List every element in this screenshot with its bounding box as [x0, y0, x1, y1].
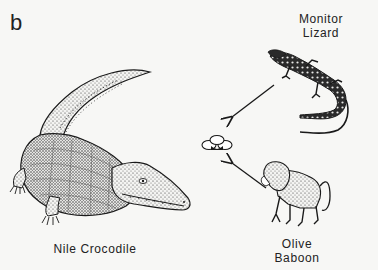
egg-clutch-illustration [202, 136, 232, 151]
nile-crocodile-illustration [10, 70, 190, 225]
olive-baboon-illustration [261, 162, 330, 226]
arrow-monitor-to-eggs [232, 85, 274, 117]
figure-panel-b: b Monitor Lizard Nile Crocodile Olive Ba… [0, 0, 378, 270]
monitor-lizard-illustration [268, 50, 348, 133]
illustration-canvas [0, 0, 378, 270]
arrow-baboon-to-eggs [232, 163, 266, 188]
